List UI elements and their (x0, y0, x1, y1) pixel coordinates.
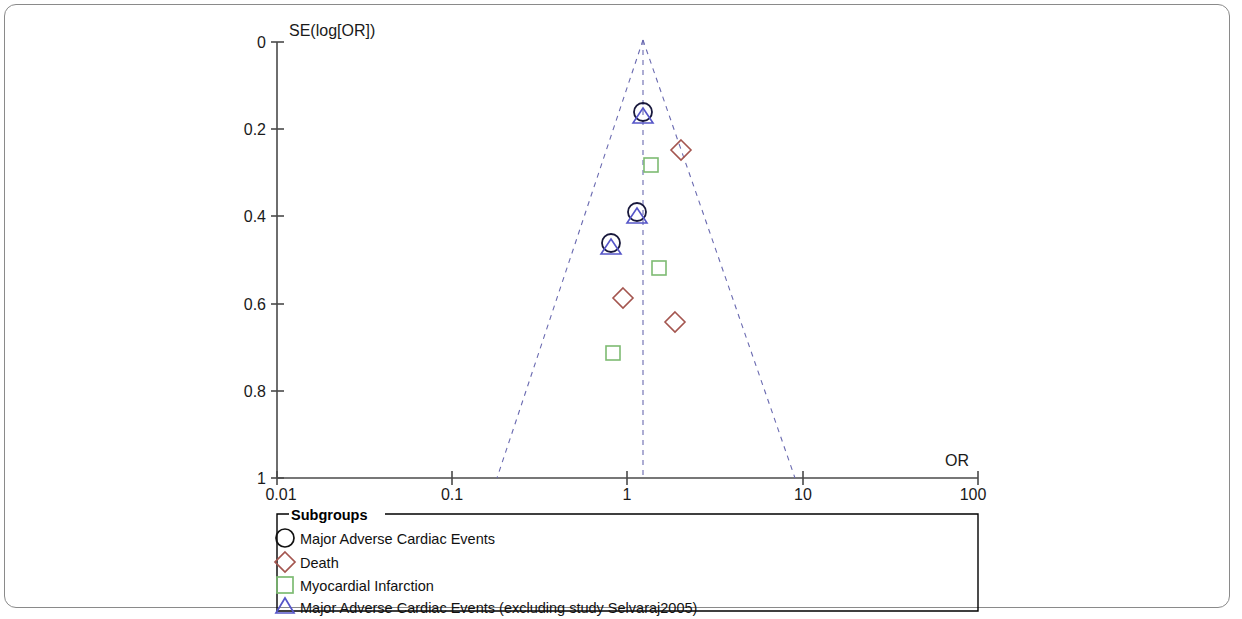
funnel-guides (497, 40, 795, 478)
x-axis-tick-labels: 0.01 0.1 1 10 100 (265, 486, 986, 503)
data-point-diamond (613, 288, 633, 308)
data-points-major-adverse-cardiac-events (602, 103, 652, 252)
y-tick-label-0: 0 (257, 34, 266, 51)
x-tick-label-0.1: 0.1 (441, 486, 463, 503)
y-tick-label-0.2: 0.2 (244, 121, 266, 138)
diamond-icon (275, 552, 295, 572)
funnel-right-line (643, 40, 795, 478)
legend-box-outline (277, 514, 978, 611)
data-point-square (652, 261, 666, 275)
legend-item-label: Major Adverse Cardiac Events (excluding … (300, 600, 697, 616)
data-point-square (606, 346, 620, 360)
y-axis-title: SE(log[OR]) (289, 22, 375, 39)
figure-page: 0 0.2 0.4 0.6 0.8 1 0.01 0.1 1 10 100 SE… (0, 0, 1242, 619)
data-points-myocardial-infarction (606, 158, 666, 360)
x-tick-label-10: 10 (794, 486, 812, 503)
legend-item-label: Death (300, 555, 339, 571)
legend-item-label: Myocardial Infarction (300, 578, 434, 594)
x-axis-title: OR (945, 452, 969, 469)
data-points-death (613, 140, 691, 332)
data-points-major-adverse-cardiac-events-excluding (601, 108, 653, 254)
y-axis-tick-labels: 0 0.2 0.4 0.6 0.8 1 (244, 34, 266, 487)
x-tick-label-0.01: 0.01 (265, 486, 296, 503)
funnel-left-line (497, 40, 643, 478)
legend-item-death[interactable]: Death (275, 552, 339, 572)
y-tick-label-0.8: 0.8 (244, 383, 266, 400)
legend-title: Subgroups (291, 507, 368, 523)
legend-item-myocardial-infarction[interactable]: Myocardial Infarction (277, 577, 434, 594)
plot-axes (271, 42, 978, 485)
square-icon (277, 577, 293, 593)
circle-icon (276, 529, 294, 547)
y-tick-label-0.4: 0.4 (244, 208, 266, 225)
y-tick-label-0.6: 0.6 (244, 296, 266, 313)
y-tick-label-1: 1 (257, 470, 266, 487)
x-tick-label-1: 1 (623, 486, 632, 503)
data-point-diamond (665, 312, 685, 332)
legend-item-label: Major Adverse Cardiac Events (300, 531, 495, 547)
data-point-diamond (671, 140, 691, 160)
data-point-square (644, 158, 658, 172)
x-tick-label-100: 100 (960, 486, 987, 503)
legend-item-major-adverse-cardiac-events-excluding[interactable]: Major Adverse Cardiac Events (excluding … (276, 598, 697, 616)
funnel-plot-figure: 0 0.2 0.4 0.6 0.8 1 0.01 0.1 1 10 100 SE… (0, 0, 1242, 619)
legend-item-major-adverse-cardiac-events[interactable]: Major Adverse Cardiac Events (276, 529, 495, 547)
legend-panel: Subgroups Major Adverse Cardiac Events D… (275, 507, 978, 616)
